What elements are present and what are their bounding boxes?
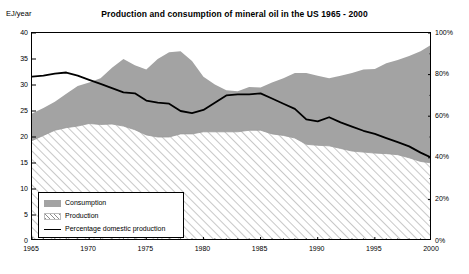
y-axis-right-tick-label: 20% xyxy=(435,195,465,202)
legend-item-label: Percentage domestic production xyxy=(65,225,165,233)
y-axis-left-tick-label: 25 xyxy=(6,107,28,114)
black-line-swatch xyxy=(44,226,61,233)
y-axis-left-tick-label: 20 xyxy=(6,133,28,140)
x-axis-tick-label: 2000 xyxy=(414,245,448,252)
legend-item-percentage-domestic-production: Percentage domestic production xyxy=(44,223,178,235)
y-axis-right-tick-label: 80% xyxy=(435,70,465,77)
y-axis-unit-label: EJ/year xyxy=(6,9,31,18)
x-axis-tick-label: 1995 xyxy=(357,245,391,252)
y-axis-left-tick-label: 5 xyxy=(6,211,28,218)
legend-item-label: Consumption xyxy=(65,199,106,207)
y-axis-left-tick-label: 0 xyxy=(6,237,28,244)
legend-item-label: Production xyxy=(65,212,98,220)
x-axis-tick-label: 1985 xyxy=(243,245,277,252)
gray-fill-swatch xyxy=(44,200,61,207)
chart-title: Production and consumption of mineral oi… xyxy=(0,9,469,19)
chart-container: Production and consumption of mineral oi… xyxy=(0,0,469,274)
hatched-fill-swatch xyxy=(44,213,61,220)
y-axis-right-tick-label: 0% xyxy=(435,237,465,244)
y-axis-left-tick-label: 35 xyxy=(6,55,28,62)
y-axis-right-tick-label: 100% xyxy=(435,29,465,36)
x-axis-tick-label: 1975 xyxy=(128,245,162,252)
x-axis-tick-label: 1980 xyxy=(185,245,219,252)
y-axis-left-tick-label: 10 xyxy=(6,185,28,192)
y-axis-left-tick-label: 30 xyxy=(6,81,28,88)
y-axis-left-tick-label: 15 xyxy=(6,159,28,166)
x-axis-tick-label: 1970 xyxy=(71,245,105,252)
legend-item-production: Production xyxy=(44,210,178,222)
x-axis-tick-label: 1965 xyxy=(14,245,48,252)
x-axis-tick-label: 1990 xyxy=(300,245,334,252)
y-axis-right-tick-label: 60% xyxy=(435,112,465,119)
y-axis-right-tick-label: 40% xyxy=(435,153,465,160)
y-axis-left-tick-label: 40 xyxy=(6,29,28,36)
chart-legend: Consumption Production Percentage domest… xyxy=(38,192,184,238)
legend-item-consumption: Consumption xyxy=(44,197,178,209)
